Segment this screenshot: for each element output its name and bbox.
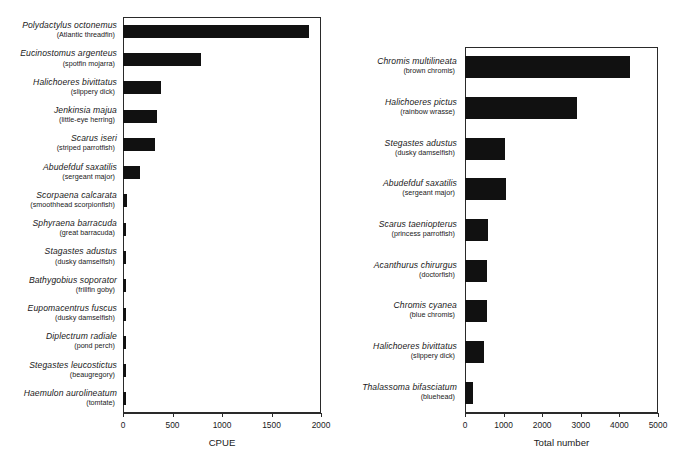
species-scientific-name: Eucinostomus argenteus — [20, 49, 117, 59]
bar — [123, 110, 157, 123]
bar — [123, 166, 140, 179]
bar — [123, 364, 126, 377]
x-axis-tick — [173, 413, 174, 417]
species-label: Eupomacentrus fuscus(dusky damselfish) — [28, 304, 117, 322]
species-common-name: (princess parrotfish) — [379, 230, 457, 238]
species-label: Scarus taeniopterus(princess parrotfish) — [379, 220, 457, 238]
species-common-name: (striped parrotfish) — [57, 144, 117, 152]
species-scientific-name: Thalassoma bifasciatum — [362, 383, 457, 393]
species-common-name: (pond perch) — [46, 342, 117, 350]
species-label: Abudefduf saxatilis(sergeant major) — [383, 179, 457, 197]
species-label: Scarus iseri(striped parrotfish) — [57, 134, 117, 152]
total-number-chart-panel: Chromis multilineata(brown chromis)Halic… — [337, 0, 677, 463]
species-label: Bathygobius soporator(frillfin goby) — [29, 276, 117, 294]
species-scientific-name: Abudefduf saxatilis — [43, 163, 117, 173]
bar — [465, 382, 473, 404]
x-axis-tick-label: 1000 — [213, 420, 232, 430]
x-axis-tick-label: 5000 — [649, 420, 668, 430]
species-label: Eucinostomus argenteus(spotfin mojarra) — [20, 49, 117, 67]
species-scientific-name: Acanthurus chirurgus — [374, 261, 457, 271]
bar — [465, 138, 505, 160]
species-label: Diplectrum radiale(pond perch) — [46, 332, 117, 350]
species-label: Halichoeres bivittatus(slippery dick) — [373, 342, 457, 360]
bar — [465, 178, 506, 200]
species-common-name: (brown chromis) — [377, 67, 457, 75]
x-axis-tick — [465, 413, 466, 417]
species-common-name: (sergeant major) — [43, 173, 117, 181]
bar — [123, 308, 126, 321]
species-label: Haemulon aurolineatum(tomtate) — [24, 389, 117, 407]
species-common-name: (sergeant major) — [383, 189, 457, 197]
x-axis-tick — [658, 413, 659, 417]
species-common-name: (rainbow wrasse) — [385, 108, 457, 116]
species-common-name: (blue chromis) — [394, 311, 458, 319]
species-common-name: (great barracuda) — [32, 229, 117, 237]
species-label: Acanthurus chirurgus(doctorfish) — [374, 261, 457, 279]
species-label: Stegastes adustus(dusky damselfish) — [385, 139, 457, 157]
bar — [123, 25, 309, 38]
species-label: Stegastes leucostictus(beaugregory) — [29, 361, 117, 379]
species-label: Halichoeres bivittatus(slippery dick) — [33, 78, 117, 96]
species-common-name: (Atlantic threadfin) — [22, 31, 117, 39]
species-scientific-name: Stegastes adustus — [385, 139, 457, 149]
species-scientific-name: Halichoeres bivittatus — [33, 78, 117, 88]
bar — [465, 219, 488, 241]
bar — [465, 341, 484, 363]
species-common-name: (smoothhead scorpionfish) — [30, 201, 117, 209]
bar — [123, 138, 155, 151]
x-axis-tick — [581, 413, 582, 417]
bar — [123, 194, 127, 207]
total-number-bar-rows: Chromis multilineata(brown chromis)Halic… — [337, 0, 677, 463]
bar — [123, 279, 126, 292]
x-axis-tick-label: 0 — [121, 420, 126, 430]
species-label: Polydactylus octonemus(Atlantic threadfi… — [22, 21, 117, 39]
x-axis-tick-label: 1500 — [262, 420, 281, 430]
species-label: Chromis multilineata(brown chromis) — [377, 57, 457, 75]
species-label: Abudefduf saxatilis(sergeant major) — [43, 163, 117, 181]
bar — [123, 223, 126, 236]
x-axis-tick — [272, 413, 273, 417]
x-axis-tick-label: 500 — [166, 420, 180, 430]
cpue-chart-panel: Polydactylus octonemus(Atlantic threadfi… — [0, 0, 340, 463]
species-common-name: (dusky damselfish) — [385, 149, 457, 157]
species-label: Sphyraena barracuda(great barracuda) — [32, 219, 117, 237]
bar — [123, 392, 126, 405]
species-common-name: (slippery dick) — [33, 88, 117, 96]
species-common-name: (doctorfish) — [374, 271, 457, 279]
x-axis-line — [465, 413, 658, 414]
x-axis-tick — [542, 413, 543, 417]
bar — [465, 97, 577, 119]
species-common-name: (tomtate) — [24, 399, 117, 407]
species-label: Stagastes adustus(dusky damselfish) — [45, 247, 117, 265]
x-axis-tick-label: 1000 — [494, 420, 513, 430]
x-axis-tick — [619, 413, 620, 417]
x-axis-tick-label: 0 — [463, 420, 468, 430]
species-common-name: (beaugregory) — [29, 371, 117, 379]
species-common-name: (slippery dick) — [373, 352, 457, 360]
bar — [465, 260, 487, 282]
species-common-name: (frillfin goby) — [29, 286, 117, 294]
bar — [465, 300, 487, 322]
bar — [123, 81, 161, 94]
x-axis-tick — [123, 413, 124, 417]
x-axis-title: CPUE — [209, 437, 236, 448]
species-common-name: (dusky damselfish) — [45, 258, 117, 266]
x-axis-tick-label: 2000 — [312, 420, 331, 430]
bar — [123, 53, 201, 66]
x-axis-tick — [222, 413, 223, 417]
species-scientific-name: Stegastes leucostictus — [29, 361, 117, 371]
cpue-bar-rows: Polydactylus octonemus(Atlantic threadfi… — [0, 0, 340, 463]
species-common-name: (bluehead) — [362, 393, 457, 401]
species-label: Thalassoma bifasciatum(bluehead) — [362, 383, 457, 401]
species-common-name: (little-eye herring) — [54, 116, 117, 124]
species-scientific-name: Stagastes adustus — [45, 247, 117, 257]
x-axis-title: Total number — [534, 437, 589, 448]
x-axis-tick-label: 4000 — [610, 420, 629, 430]
x-axis-tick-label: 3000 — [571, 420, 590, 430]
species-label: Scorpaena calcarata(smoothhead scorpionf… — [30, 191, 117, 209]
species-common-name: (spotfin mojarra) — [20, 60, 117, 68]
x-axis-tick-label: 2000 — [533, 420, 552, 430]
species-scientific-name: Bathygobius soporator — [29, 276, 117, 286]
bar — [123, 336, 126, 349]
x-axis-tick — [321, 413, 322, 417]
